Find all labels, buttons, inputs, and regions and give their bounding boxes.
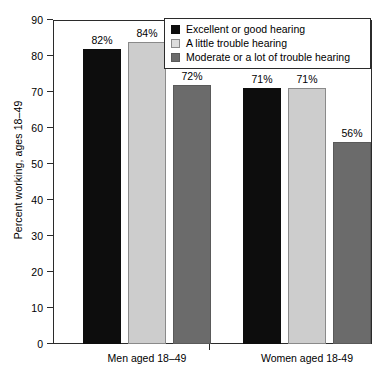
x-axis-tick-label: Men aged 18–49 [77, 352, 217, 365]
y-axis-tick-label: 10 [31, 302, 43, 314]
bar [243, 88, 281, 344]
legend-item-excellent-or-good-hearing: Excellent or good hearing [171, 23, 367, 36]
y-axis-tick-label: 80 [31, 50, 43, 62]
y-axis-tick-label: 70 [31, 86, 43, 98]
bar-value-label: 71% [282, 73, 332, 85]
bar-value-label: 82% [77, 34, 127, 46]
y-axis-tick: 0 [0, 338, 53, 350]
legend-swatch-icon [171, 39, 180, 48]
y-axis-tick: 60 [0, 122, 53, 134]
bar-chart: Percent working, ages 18–49 010203040506… [0, 0, 383, 378]
bar-value-label: 72% [167, 70, 217, 82]
y-axis-tick-label: 20 [31, 266, 43, 278]
y-axis-tick: 70 [0, 86, 53, 98]
y-axis-tick: 40 [0, 194, 53, 206]
legend-item-label: Moderate or a lot of trouble hearing [186, 51, 350, 64]
legend: Excellent or good hearing A little troub… [164, 18, 371, 69]
x-axis-tick-label: Women aged 18-49 [237, 352, 377, 365]
bar-value-label: 71% [237, 73, 287, 85]
bar [128, 42, 166, 344]
y-axis-tick-label: 30 [31, 230, 43, 242]
legend-swatch-icon [171, 25, 180, 34]
legend-item-a-little-trouble-hearing: A little trouble hearing [171, 37, 367, 50]
y-axis-tick: 10 [0, 302, 53, 314]
x-axis-tick-mark [209, 344, 210, 350]
y-axis-tick-label: 0 [37, 338, 43, 350]
bar [173, 85, 211, 344]
y-axis-tick: 20 [0, 266, 53, 278]
y-axis-tick-label: 40 [31, 194, 43, 206]
y-axis-tick: 30 [0, 230, 53, 242]
y-axis-tick-label: 90 [31, 14, 43, 26]
bar [83, 49, 121, 344]
bar-value-label: 56% [327, 127, 377, 139]
y-axis-tick-label: 60 [31, 122, 43, 134]
legend-item-label: A little trouble hearing [186, 37, 287, 50]
y-axis-tick: 80 [0, 50, 53, 62]
y-axis-tick: 50 [0, 158, 53, 170]
y-axis-tick: 90 [0, 14, 53, 26]
bar [333, 142, 371, 344]
legend-item-moderate-or-a-lot-of-trouble-hearing: Moderate or a lot of trouble hearing [171, 51, 367, 64]
legend-item-label: Excellent or good hearing [186, 23, 305, 36]
y-axis-tick-label: 50 [31, 158, 43, 170]
legend-swatch-icon [171, 53, 180, 62]
bar [288, 88, 326, 344]
